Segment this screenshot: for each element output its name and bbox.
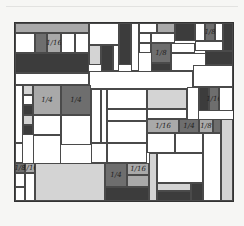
fraction-label: 1/4 [41, 96, 52, 104]
grid-cell [61, 115, 91, 145]
grid-cell [89, 23, 119, 45]
grid-cell [223, 23, 233, 51]
grid-cell [15, 23, 89, 33]
grid-cell [215, 23, 223, 41]
labeled-grid-cell: 1/4 [61, 85, 91, 115]
labeled-grid-cell: 1/16 [209, 87, 219, 111]
grid-cell [15, 33, 35, 53]
grid-cell [139, 23, 157, 33]
grid-cell [91, 89, 101, 143]
grid-cell [157, 183, 191, 191]
grid-artwork: 1/161/81/81/41/41/161/161/41/81/81/161/4… [14, 22, 234, 202]
grid-cell [15, 53, 89, 73]
grid-cell [61, 33, 75, 53]
fraction-label: 1/16 [155, 122, 171, 130]
fraction-label: 1/4 [70, 96, 81, 104]
grid-cell [157, 23, 175, 33]
grid-cell [89, 71, 193, 89]
grid-cell [23, 95, 33, 105]
grid-cell [175, 23, 195, 41]
grid-cell [139, 43, 151, 53]
fraction-label: 1/16 [46, 39, 62, 47]
grid-cell [193, 65, 233, 87]
grid-cell [205, 51, 233, 65]
grid-cell [191, 183, 203, 201]
grid-cell [89, 45, 101, 65]
grid-cell [23, 115, 33, 125]
grid-cell [107, 109, 147, 121]
grid-cell [219, 87, 233, 111]
labeled-grid-cell: 1/16 [25, 163, 35, 173]
fraction-label: 1/16 [130, 165, 146, 173]
paper-edge-line [6, 6, 238, 7]
grid-cell [91, 143, 107, 163]
grid-cell [33, 115, 61, 135]
grid-cell [157, 191, 191, 201]
grid-cell [195, 41, 223, 51]
labeled-grid-cell: 1/4 [33, 85, 61, 115]
grid-cell [175, 133, 203, 153]
fraction-label: 1/8 [204, 28, 215, 36]
grid-cell [25, 173, 35, 201]
grid-cell [107, 121, 147, 143]
grid-cell [203, 133, 221, 201]
grid-cell [149, 153, 157, 201]
grid-cell [147, 109, 187, 119]
grid-cell [221, 119, 233, 201]
grid-cell [23, 105, 33, 115]
fraction-label: 1/4 [183, 122, 194, 130]
grid-cell [147, 89, 187, 109]
labeled-grid-cell: 1/4 [179, 119, 199, 133]
grid-cell [107, 89, 147, 109]
grid-cell [23, 85, 33, 95]
fraction-label: 1/8 [155, 49, 166, 57]
fraction-label: 1/4 [110, 171, 121, 179]
grid-cell [139, 33, 151, 43]
grid-cell [105, 187, 149, 201]
labeled-grid-cell: 1/16 [147, 119, 179, 133]
labeled-grid-cell: 1/16 [127, 163, 149, 175]
grid-cell [171, 43, 195, 53]
labeled-grid-cell: 1/4 [105, 163, 127, 187]
labeled-grid-cell: 1/8 [205, 23, 215, 41]
grid-cell [15, 187, 25, 201]
grid-cell [151, 63, 171, 71]
labeled-grid-cell: 1/8 [151, 43, 171, 63]
grid-cell [75, 33, 89, 53]
grid-cell [151, 33, 175, 43]
grid-cell [213, 119, 221, 133]
grid-cell [107, 143, 147, 163]
grid-cell [23, 125, 33, 135]
grid-cell [157, 153, 203, 183]
labeled-grid-cell: 1/8 [199, 119, 213, 133]
grid-cell [127, 175, 149, 187]
grid-cell [119, 23, 131, 65]
fraction-label: 1/8 [200, 122, 211, 130]
labeled-grid-cell: 1/16 [47, 33, 61, 53]
grid-cell [131, 23, 139, 71]
grid-cell [35, 163, 105, 201]
grid-cell [15, 73, 89, 85]
grid-cell [147, 133, 175, 153]
grid-cell [15, 85, 23, 143]
grid-cell [15, 173, 25, 187]
grid-cell [101, 45, 113, 71]
grid-cell [15, 143, 23, 163]
